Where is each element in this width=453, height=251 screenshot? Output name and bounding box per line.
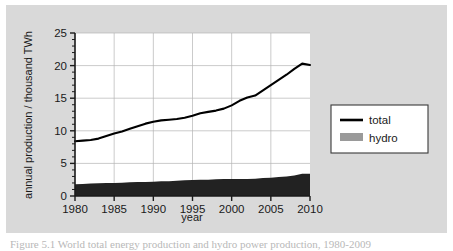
legend-swatch-hydro: [340, 133, 363, 141]
x-tick-label: 1985: [101, 203, 127, 215]
figure-root: 0510152025 1980198519901995200020052010 …: [0, 0, 453, 251]
y-tick-label: 5: [61, 157, 67, 169]
y-tick-label: 15: [54, 92, 67, 104]
chart-legend: total hydro: [331, 105, 428, 153]
x-tick-label: 2010: [297, 203, 323, 215]
y-tick-label: 25: [54, 27, 67, 39]
legend-label-hydro: hydro: [369, 132, 398, 144]
figure-panel: 0510152025 1980198519901995200020052010 …: [6, 5, 447, 233]
y-tick-label: 0: [61, 190, 67, 202]
y-tick-label: 10: [54, 125, 67, 137]
x-tick-label: 1980: [62, 203, 88, 215]
y-axis-tick-labels: 0510152025: [54, 27, 67, 202]
y-tick-label: 20: [54, 60, 67, 72]
production-chart: 0510152025 1980198519901995200020052010 …: [6, 5, 447, 233]
x-tick-label: 2000: [219, 203, 245, 215]
legend-box: [331, 105, 428, 153]
x-tick-label: 1990: [141, 203, 167, 215]
x-tick-label: 2005: [258, 203, 284, 215]
y-axis-title: annual production / thousand TWh: [22, 31, 34, 199]
legend-label-total: total: [369, 114, 391, 126]
x-axis-title: year: [181, 211, 203, 223]
figure-caption: Figure 5.1 World total energy production…: [10, 238, 450, 251]
